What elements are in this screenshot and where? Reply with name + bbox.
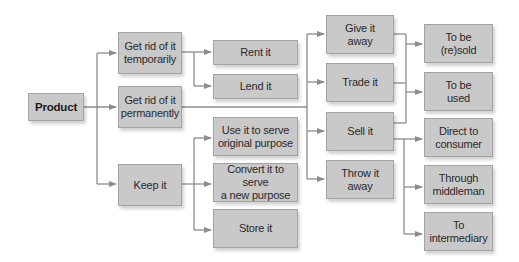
node-trade-it: Trade it bbox=[326, 63, 394, 102]
node-store-it: Store it bbox=[213, 209, 298, 248]
product-disposition-diagram: Product Get rid of it temporarily Get ri… bbox=[0, 0, 519, 262]
node-throw-it-away: Throw it away bbox=[326, 160, 394, 199]
node-label: Use it to serve original purpose bbox=[218, 124, 293, 150]
node-keep-it: Keep it bbox=[118, 164, 182, 206]
node-get-rid-temporarily: Get rid of it temporarily bbox=[118, 32, 182, 74]
node-label: Give it away bbox=[345, 22, 375, 48]
node-use-original-purpose: Use it to serve original purpose bbox=[213, 117, 298, 156]
node-label: Throw it away bbox=[341, 167, 379, 193]
node-label: Product bbox=[35, 101, 77, 114]
node-give-it-away: Give it away bbox=[326, 15, 394, 54]
node-label: Get rid of it temporarily bbox=[124, 40, 176, 66]
node-get-rid-permanently: Get rid of it permanently bbox=[118, 86, 182, 128]
node-lend-it: Lend it bbox=[213, 74, 298, 99]
node-through-middleman: Through middleman bbox=[424, 165, 493, 204]
node-direct-to-consumer: Direct to consumer bbox=[424, 118, 493, 157]
node-to-intermediary: To intermediary bbox=[424, 212, 493, 251]
node-label: Through middleman bbox=[432, 172, 484, 198]
node-product: Product bbox=[28, 93, 84, 121]
node-label: Rent it bbox=[240, 46, 270, 59]
node-label: Sell it bbox=[347, 125, 373, 138]
node-label: Keep it bbox=[134, 179, 167, 192]
node-label: Get rid of it permanently bbox=[121, 94, 179, 120]
node-label: To be (re)sold bbox=[441, 31, 477, 57]
node-to-be-resold: To be (re)sold bbox=[424, 24, 493, 63]
node-label: Lend it bbox=[240, 80, 272, 93]
node-label: Trade it bbox=[342, 76, 377, 89]
node-label: To intermediary bbox=[429, 219, 487, 245]
node-convert-new-purpose: Convert it to serve a new purpose bbox=[213, 163, 298, 202]
node-label: Convert it to serve a new purpose bbox=[217, 163, 294, 202]
node-rent-it: Rent it bbox=[213, 40, 298, 65]
node-label: Store it bbox=[239, 222, 272, 235]
node-label: Direct to consumer bbox=[435, 125, 482, 151]
node-sell-it: Sell it bbox=[326, 112, 394, 151]
node-label: To be used bbox=[446, 79, 472, 105]
node-to-be-used: To be used bbox=[424, 72, 493, 111]
